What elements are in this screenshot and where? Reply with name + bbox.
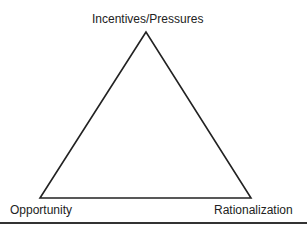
- label-rationalization: Rationalization: [214, 203, 293, 217]
- label-incentives-pressures: Incentives/Pressures: [92, 12, 203, 26]
- triangle-shape: [40, 32, 251, 198]
- label-opportunity: Opportunity: [10, 203, 72, 217]
- fraud-triangle-diagram: [0, 0, 307, 226]
